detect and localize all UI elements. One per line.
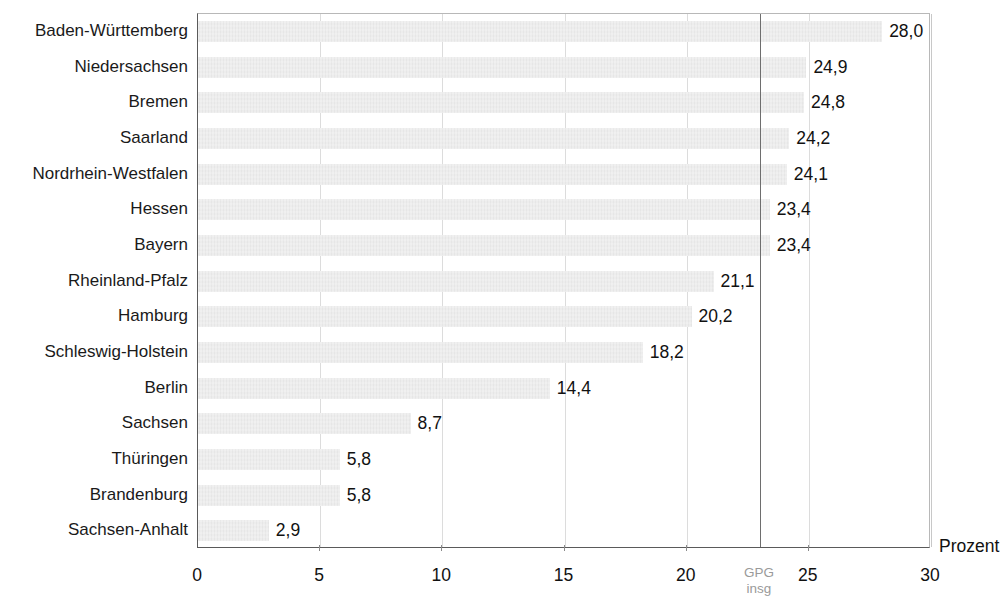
bar <box>198 449 340 470</box>
x-tick-mark <box>808 545 809 551</box>
value-label: 24,2 <box>796 127 830 149</box>
value-label: 23,4 <box>777 198 811 220</box>
category-label: Schleswig-Holstein <box>0 341 188 363</box>
bar-row <box>198 335 929 371</box>
bar <box>198 306 692 327</box>
bar-row <box>198 406 929 442</box>
x-tick-mark <box>564 545 565 551</box>
value-label: 20,2 <box>699 305 733 327</box>
gpg-reference-line <box>760 14 761 547</box>
value-label: 24,9 <box>813 56 847 78</box>
x-tick-label: 20 <box>676 565 695 585</box>
x-tick-label: 15 <box>554 565 573 585</box>
bar <box>198 520 269 541</box>
value-label: 14,4 <box>557 377 591 399</box>
value-label: 8,7 <box>418 412 442 434</box>
bar-row <box>198 14 929 50</box>
axis-unit-label: Prozent <box>939 536 999 556</box>
x-tick-label: 0 <box>192 565 202 585</box>
value-label: 24,1 <box>794 163 828 185</box>
category-label: Bremen <box>0 91 188 113</box>
bar-row <box>198 513 929 549</box>
bar <box>198 342 643 363</box>
value-label: 24,8 <box>811 91 845 113</box>
bar <box>198 271 714 292</box>
bar <box>198 413 411 434</box>
gpg-reference-caption: GPGinsg <box>744 565 774 597</box>
category-label: Hamburg <box>0 305 188 327</box>
gpg-caption-line-2: insg <box>744 581 774 597</box>
x-tick-mark <box>319 545 320 551</box>
gridline <box>931 14 932 547</box>
bar-row <box>198 442 929 478</box>
category-label: Niedersachsen <box>0 56 188 78</box>
category-label: Brandenburg <box>0 484 188 506</box>
category-label: Thüringen <box>0 448 188 470</box>
value-label: 28,0 <box>889 20 923 42</box>
bar <box>198 92 804 113</box>
category-label: Sachsen-Anhalt <box>0 519 188 541</box>
value-label: 21,1 <box>721 270 755 292</box>
category-label: Sachsen <box>0 412 188 434</box>
category-label: Rheinland-Pfalz <box>0 270 188 292</box>
bar <box>198 57 806 78</box>
x-tick-label: 5 <box>314 565 324 585</box>
value-label: 5,8 <box>347 448 371 470</box>
value-label: 2,9 <box>276 519 300 541</box>
bar <box>198 485 340 506</box>
x-tick-mark <box>441 545 442 551</box>
bar-row <box>198 264 929 300</box>
x-tick-label: 25 <box>798 565 817 585</box>
category-label: Nordrhein-Westfalen <box>0 163 188 185</box>
category-label: Hessen <box>0 198 188 220</box>
category-label: Bayern <box>0 234 188 256</box>
category-label: Saarland <box>0 127 188 149</box>
bar <box>198 128 789 149</box>
bar-row <box>198 299 929 335</box>
x-tick-label: 10 <box>432 565 451 585</box>
bar-row <box>198 228 929 264</box>
value-label: 5,8 <box>347 484 371 506</box>
value-label: 23,4 <box>777 234 811 256</box>
value-label: 18,2 <box>650 341 684 363</box>
gpg-caption-line-1: GPG <box>744 565 774 581</box>
bar <box>198 378 550 399</box>
x-tick-label: 30 <box>920 565 939 585</box>
bar-chart: Baden-WürttembergNiedersachsenBremenSaar… <box>0 0 1007 610</box>
bar-row <box>198 478 929 514</box>
bar-row <box>198 192 929 228</box>
bar <box>198 199 770 220</box>
bar <box>198 164 787 185</box>
category-label: Berlin <box>0 377 188 399</box>
x-tick-mark <box>686 545 687 551</box>
category-label: Baden-Württemberg <box>0 20 188 42</box>
bar <box>198 235 770 256</box>
bar <box>198 21 882 42</box>
